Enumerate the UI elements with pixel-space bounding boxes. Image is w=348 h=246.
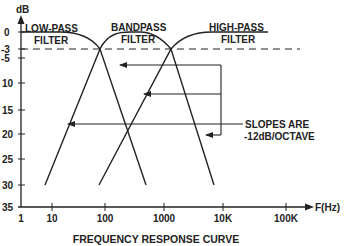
svg-text:SLOPES ARE: SLOPES ARE <box>245 119 309 130</box>
y-axis-arrow-icon <box>18 15 25 24</box>
x-tick-label: 1000 <box>153 213 176 224</box>
svg-text:BANDPASS: BANDPASS <box>111 22 167 33</box>
x-axis-arrow-icon <box>305 204 314 211</box>
svg-text:LOW-PASS: LOW-PASS <box>25 23 78 34</box>
figure-caption: FREQUENCY RESPONSE CURVE <box>73 233 239 245</box>
svg-text:HIGH-PASS: HIGH-PASS <box>209 22 264 33</box>
y-tick-label: 0 <box>4 27 10 38</box>
y-tick-label: 20 <box>2 129 14 140</box>
low-pass-curve <box>21 32 146 185</box>
low-pass-label: LOW-PASS FILTER <box>25 23 78 46</box>
high-pass-label: HIGH-PASS FILTER <box>209 22 264 45</box>
x-tick-label: 100 <box>97 213 114 224</box>
y-tick-label: -5 <box>1 53 10 64</box>
y-tick-label: 35 <box>2 202 14 213</box>
x-tick-label: 100K <box>274 213 299 224</box>
x-axis-label: F(Hz) <box>315 202 340 213</box>
y-tick-label: 15 <box>2 105 14 116</box>
slope-annotation-text: SLOPES ARE -12dB/OCTAVE <box>244 119 315 142</box>
y-tick-label: 30 <box>2 180 14 191</box>
band-pass-curve <box>45 32 214 185</box>
x-axis: F(Hz) 1 10 100 1000 10K 100K <box>18 202 340 224</box>
y-axis: dB 0 -3 -5 10 15 20 25 30 35 <box>1 4 29 213</box>
y-axis-label: dB <box>16 4 29 15</box>
svg-text:FILTER: FILTER <box>121 34 156 45</box>
frequency-response-figure: dB 0 -3 -5 10 15 20 25 30 35 F(Hz) 1 10 … <box>0 0 348 246</box>
y-tick-label: 10 <box>2 78 14 89</box>
x-tick-label: 10K <box>214 213 233 224</box>
slope-annotation-arrows <box>68 65 243 135</box>
x-tick-label: 10 <box>46 213 58 224</box>
svg-text:FILTER: FILTER <box>34 35 69 46</box>
x-tick-label: 1 <box>18 213 24 224</box>
high-pass-curve <box>99 32 268 185</box>
svg-text:-12dB/OCTAVE: -12dB/OCTAVE <box>244 131 315 142</box>
y-tick-label: 25 <box>2 154 14 165</box>
svg-text:FILTER: FILTER <box>221 34 256 45</box>
